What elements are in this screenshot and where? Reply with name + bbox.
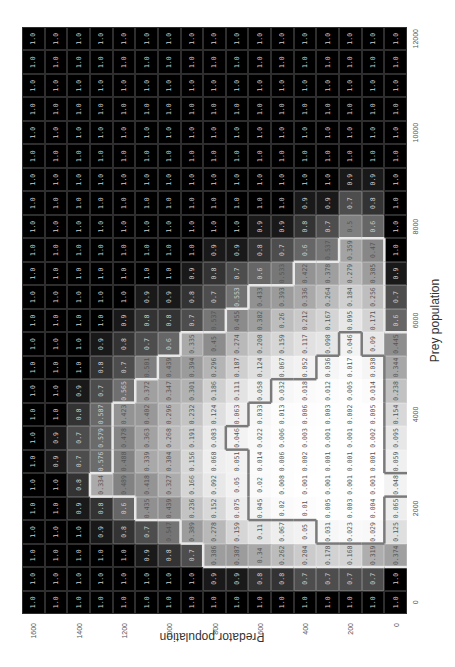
heatmap-cell: 1.0 [384, 238, 407, 261]
heatmap-cell: 0.587 [90, 403, 113, 426]
heatmap-cell: 0.6 [384, 309, 407, 332]
heatmap-cell: 0.9 [226, 238, 249, 261]
heatmap-cell: 0.533 [271, 262, 294, 285]
heatmap-cell: 1.0 [203, 51, 226, 74]
heatmap-cell: 0.006 [271, 426, 294, 449]
heatmap-cell: 1.0 [22, 238, 45, 261]
heatmap-cell: 1.0 [181, 591, 204, 614]
heatmap-cell: 1.0 [113, 262, 136, 285]
heatmap-cell: 0.178 [316, 544, 339, 567]
heatmap-cell: 1.0 [203, 121, 226, 144]
heatmap-cell: 0.6 [294, 238, 317, 261]
heatmap-cell: 0.9 [113, 309, 136, 332]
heatmap-cell: 0.014 [248, 450, 271, 473]
heatmap-cell: 0.003 [339, 497, 362, 520]
heatmap-cell: 1.0 [181, 97, 204, 120]
heatmap-cell: 1.0 [384, 591, 407, 614]
heatmap-cell: 0.547 [158, 520, 181, 543]
heatmap-cell: 1.0 [90, 74, 113, 97]
heatmap-cell: 0.9 [90, 520, 113, 543]
heatmap-cell: 1.0 [22, 262, 45, 285]
heatmap-cell: 0.7 [181, 309, 204, 332]
heatmap-cell: 1.0 [113, 238, 136, 261]
heatmap-cell: 0.264 [316, 285, 339, 308]
heatmap-cell: 0.553 [226, 285, 249, 308]
heatmap-cell: 0.8 [113, 332, 136, 355]
heatmap-cell: 0.017 [339, 356, 362, 379]
heatmap-cell: 1.0 [248, 51, 271, 74]
heatmap-cell: 0.347 [158, 379, 181, 402]
heatmap-cell: 0.067 [271, 520, 294, 543]
heatmap-cell: 1.0 [90, 121, 113, 144]
heatmap-cell: 1.0 [22, 332, 45, 355]
heatmap-cell: 1.0 [226, 168, 249, 191]
heatmap-cell: 1.0 [226, 74, 249, 97]
heatmap-cell: 1.0 [362, 27, 385, 50]
heatmap-cell: 1.0 [90, 238, 113, 261]
heatmap-cell: 0.433 [248, 285, 271, 308]
heatmap-cell: 1.0 [362, 121, 385, 144]
heatmap-cell: 1.0 [22, 27, 45, 50]
heatmap-cell: 0.7 [67, 426, 90, 449]
heatmap-cell: 1.0 [135, 238, 158, 261]
heatmap-cell: 0.478 [113, 426, 136, 449]
heatmap-cell: 0.212 [294, 309, 317, 332]
heatmap-cell: 1.0 [90, 544, 113, 567]
heatmap-cell: 0.9 [316, 191, 339, 214]
heatmap-cell: 1.0 [294, 51, 317, 74]
x-tick-label: 12000 [412, 29, 419, 48]
heatmap-cell: 0.9 [135, 285, 158, 308]
heatmap-cell: 0.6 [113, 497, 136, 520]
heatmap-cell: 0.455 [226, 309, 249, 332]
heatmap-cell: 0.152 [203, 497, 226, 520]
heatmap-cell: 0.001 [294, 473, 317, 496]
heatmap-cell: 0.001 [339, 426, 362, 449]
heatmap-cell: 1.0 [45, 191, 68, 214]
heatmap-cell: 1.0 [226, 191, 249, 214]
heatmap-cell: 1.0 [362, 591, 385, 614]
heatmap-cell: 0.301 [181, 379, 204, 402]
heatmap-cell: 1.0 [22, 121, 45, 144]
heatmap-cell: 1.0 [181, 567, 204, 590]
heatmap-cell: 1.0 [158, 168, 181, 191]
heatmap-cell: 1.0 [45, 567, 68, 590]
heatmap-cell: 0.002 [362, 426, 385, 449]
heatmap-cell: 1.0 [45, 262, 68, 285]
heatmap-cell: 0.083 [203, 426, 226, 449]
heatmap-cell: 1.0 [362, 74, 385, 97]
x-tick-label: 2000 [412, 501, 419, 517]
heatmap-cell: 0.8 [158, 309, 181, 332]
heatmap-cell: 1.0 [181, 51, 204, 74]
heatmap-cell: 1.0 [67, 567, 90, 590]
heatmap-cell: 1.0 [384, 74, 407, 97]
heatmap-cell: 0.052 [294, 356, 317, 379]
heatmap-cell: 0.386 [203, 544, 226, 567]
heatmap-cell: 0.385 [362, 262, 385, 285]
heatmap-cell: 0.9 [45, 450, 68, 473]
heatmap-cell: 0.26 [271, 309, 294, 332]
heatmap-cell: 1.0 [384, 168, 407, 191]
heatmap-cell: 0.9 [271, 215, 294, 238]
heatmap-cell: 1.0 [158, 215, 181, 238]
heatmap-cell: 1.0 [203, 591, 226, 614]
heatmap-cell: 0.184 [339, 285, 362, 308]
heatmap-cell: 0.256 [362, 285, 385, 308]
heatmap-cell: 0.34 [248, 544, 271, 567]
heatmap-cell: 0.9 [294, 191, 317, 214]
heatmap-cell: 1.0 [113, 51, 136, 74]
heatmap-cell: 1.0 [22, 473, 45, 496]
heatmap-cell: 1.0 [248, 121, 271, 144]
heatmap-cell: 0.023 [339, 520, 362, 543]
heatmap-cell: 1.0 [158, 191, 181, 214]
heatmap-cell: 0.8 [135, 309, 158, 332]
heatmap-cell: 0.422 [294, 262, 317, 285]
heatmap-cell: 0.9 [67, 497, 90, 520]
heatmap-cell: 1.0 [226, 121, 249, 144]
heatmap-cell: 0.319 [362, 544, 385, 567]
heatmap-cell: 0.075 [226, 497, 249, 520]
heatmap-cell: 1.0 [22, 51, 45, 74]
heatmap-cell: 0.445 [384, 332, 407, 355]
heatmap-cell: 1.0 [135, 27, 158, 50]
heatmap-cell: 1.0 [67, 144, 90, 167]
heatmap-cell: 1.0 [384, 191, 407, 214]
